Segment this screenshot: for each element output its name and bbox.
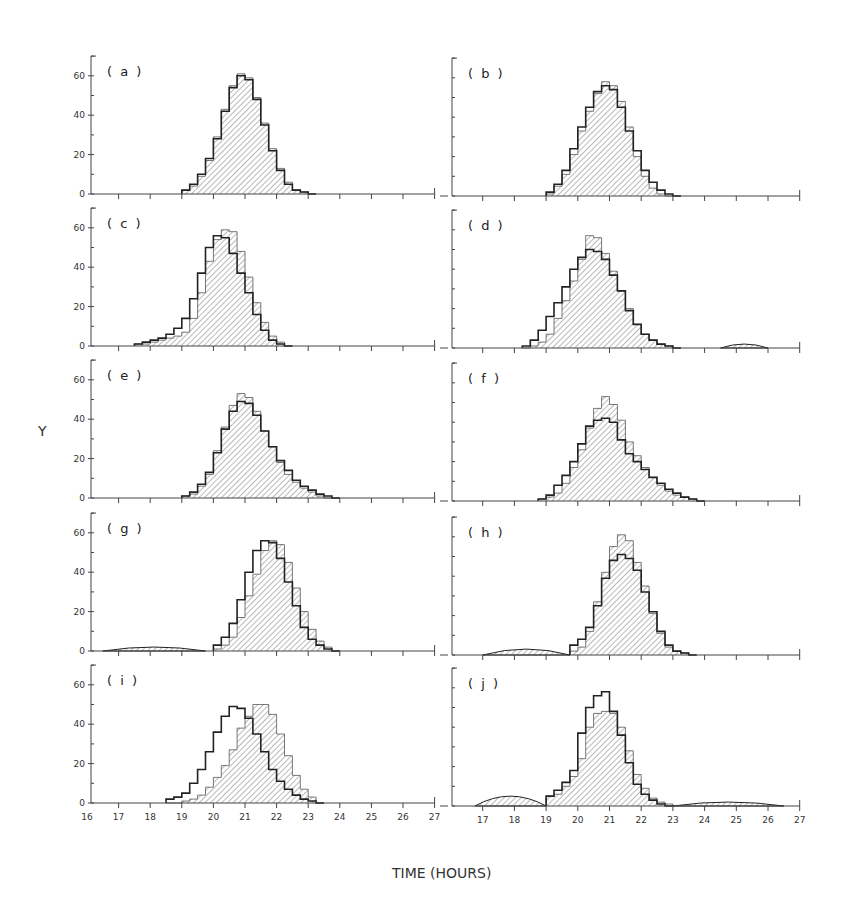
x-tick-label: 23 (302, 812, 313, 822)
histogram-panel-d: ( d ) (440, 210, 800, 353)
histogram-panel-g: 0204060( g ) (74, 513, 435, 656)
x-tick-label: 21 (604, 815, 615, 825)
y-tick-label: 20 (74, 302, 86, 312)
histogram-figure: 0204060( a )( b )0204060( c )( d )020406… (0, 0, 845, 897)
x-axis-title: TIME (HOURS) (391, 865, 491, 881)
panel-label: ( c ) (107, 216, 143, 231)
histogram-panel-a: 0204060( a ) (74, 56, 435, 199)
y-tick-label: 0 (79, 189, 85, 199)
x-tick-label: 19 (540, 815, 552, 825)
histogram-panel-j: 1718192021222324252627( j ) (440, 668, 805, 825)
tail-low_tail (483, 649, 570, 655)
histogram-panel-i: 0204060161718192021222324252627( i ) (74, 665, 441, 822)
panel-label: ( g ) (107, 521, 144, 536)
x-tick-label: 17 (113, 812, 124, 822)
tail-low_tail (103, 647, 206, 651)
y-tick-label: 0 (79, 646, 85, 656)
panel-label: ( f ) (468, 371, 501, 386)
x-tick-label: 19 (176, 812, 188, 822)
x-tick-label: 24 (699, 815, 711, 825)
panel-label: ( b ) (468, 66, 505, 81)
x-tick-label: 20 (572, 815, 584, 825)
tail-high_tail (673, 802, 784, 806)
x-tick-label: 22 (271, 812, 282, 822)
x-tick-label: 25 (731, 815, 742, 825)
y-tick-label: 60 (74, 71, 86, 81)
y-tick-label: 20 (74, 759, 86, 769)
hatched-histogram (538, 397, 704, 501)
y-tick-label: 60 (74, 680, 86, 690)
x-tick-label: 18 (144, 812, 156, 822)
hatched-histogram (546, 82, 681, 196)
x-tick-label: 26 (762, 815, 774, 825)
x-tick-label: 27 (429, 812, 440, 822)
histogram-panel-b: ( b ) (440, 58, 800, 201)
y-tick-label: 0 (79, 493, 85, 503)
hatched-histogram (570, 535, 697, 655)
y-tick-label: 20 (74, 607, 86, 617)
panel-label: ( a ) (107, 64, 143, 79)
x-tick-label: 27 (794, 815, 805, 825)
panel-label: ( h ) (468, 525, 505, 540)
y-tick-label: 0 (79, 341, 85, 351)
y-tick-label: 40 (74, 110, 86, 120)
x-tick-label: 23 (667, 815, 678, 825)
x-tick-label: 26 (397, 812, 409, 822)
y-tick-label: 40 (74, 567, 86, 577)
x-tick-label: 21 (239, 812, 250, 822)
histogram-panel-h: ( h ) (440, 517, 800, 660)
y-tick-label: 20 (74, 454, 86, 464)
hatched-histogram (546, 711, 673, 806)
x-tick-label: 24 (334, 812, 346, 822)
panel-label: ( i ) (107, 673, 139, 688)
tail-low_tail (475, 796, 546, 806)
tail-secondary_bump (721, 344, 769, 348)
y-tick-label: 20 (74, 150, 86, 160)
hatched-histogram (182, 74, 316, 194)
y-axis-title: Y (37, 423, 47, 439)
histogram-panel-e: 0204060( e ) (74, 360, 435, 503)
x-tick-label: 20 (208, 812, 220, 822)
histogram-panel-c: 0204060( c ) (74, 208, 435, 351)
histogram-panel-f: ( f ) (440, 363, 800, 506)
panels-group: 0204060( a )( b )0204060( c )( d )020406… (74, 56, 806, 825)
y-tick-label: 40 (74, 414, 86, 424)
panel-label: ( d ) (468, 218, 505, 233)
x-tick-label: 25 (366, 812, 377, 822)
panel-label: ( e ) (107, 368, 143, 383)
x-tick-label: 17 (477, 815, 488, 825)
y-tick-label: 60 (74, 528, 86, 538)
y-tick-label: 60 (74, 375, 86, 385)
x-tick-label: 22 (635, 815, 646, 825)
x-tick-label: 16 (81, 812, 93, 822)
x-tick-label: 18 (509, 815, 521, 825)
y-tick-label: 0 (79, 798, 85, 808)
panel-label: ( j ) (468, 676, 500, 691)
y-tick-label: 60 (74, 223, 86, 233)
y-tick-label: 40 (74, 262, 86, 272)
y-tick-label: 40 (74, 719, 86, 729)
